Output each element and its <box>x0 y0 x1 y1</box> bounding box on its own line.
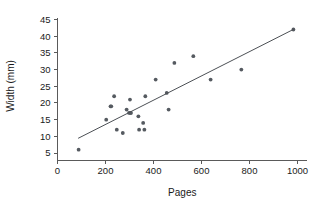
y-tick-label: 5 <box>45 147 50 158</box>
data-point <box>115 128 119 132</box>
data-point <box>136 114 140 118</box>
data-point <box>128 98 132 102</box>
data-point <box>143 94 147 98</box>
x-tick-label: 0 <box>55 165 60 176</box>
y-tick-label: 40 <box>40 31 51 42</box>
y-tick-label: 10 <box>40 131 51 142</box>
chart-canvas: 51015202530354045 02004006008001000 Page… <box>0 0 311 203</box>
x-tick-label: 200 <box>98 165 114 176</box>
data-point <box>125 108 129 112</box>
data-point <box>142 128 146 132</box>
data-point <box>239 68 243 72</box>
x-axis-ticks: 02004006008001000 <box>55 160 308 176</box>
data-point <box>172 61 176 65</box>
y-tick-label: 25 <box>40 81 51 92</box>
x-tick-label: 600 <box>194 165 210 176</box>
data-point <box>191 54 195 58</box>
data-point <box>112 94 116 98</box>
y-tick-label: 35 <box>40 47 51 58</box>
data-point <box>109 104 113 108</box>
x-tick-label: 1000 <box>287 165 308 176</box>
x-tick-label: 800 <box>242 165 258 176</box>
data-point <box>121 131 125 135</box>
data-point <box>141 121 145 125</box>
trend-line <box>78 29 294 138</box>
data-point <box>104 118 108 122</box>
y-axis-ticks: 51015202530354045 <box>40 14 58 159</box>
y-axis: 51015202530354045 <box>40 14 58 160</box>
x-axis: 02004006008001000 <box>55 160 308 176</box>
y-tick-label: 30 <box>40 64 51 75</box>
y-axis-title: Width (mm) <box>5 60 16 112</box>
y-tick-label: 15 <box>40 114 51 125</box>
data-point <box>167 108 171 112</box>
scatter-plot-figure: 51015202530354045 02004006008001000 Page… <box>0 0 311 203</box>
data-point <box>154 78 158 82</box>
x-tick-label: 400 <box>146 165 162 176</box>
y-tick-label: 20 <box>40 97 51 108</box>
y-tick-label: 45 <box>40 14 51 25</box>
data-point <box>209 78 213 82</box>
data-point <box>77 148 81 152</box>
x-axis-title: Pages <box>168 187 196 198</box>
data-point <box>137 128 141 132</box>
data-series-points <box>77 28 296 152</box>
